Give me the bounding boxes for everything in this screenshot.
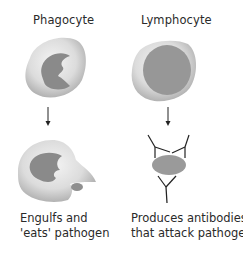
lymphocyte-cell <box>132 41 196 102</box>
antibody-right-icon <box>172 135 189 158</box>
antibody-left-icon <box>148 135 170 158</box>
antibody-target-pathogen <box>152 155 186 175</box>
phagocyte-engulfing-cell <box>18 140 96 202</box>
phagocyte-arrow-icon <box>46 107 51 126</box>
antibody-bottom-icon <box>158 176 176 203</box>
pathogen <box>71 183 83 191</box>
diagram-canvas <box>0 0 243 256</box>
lymphocyte-nucleus <box>143 45 191 95</box>
lymphocyte-arrow-icon <box>166 107 171 126</box>
phagocyte-cell <box>25 38 86 98</box>
